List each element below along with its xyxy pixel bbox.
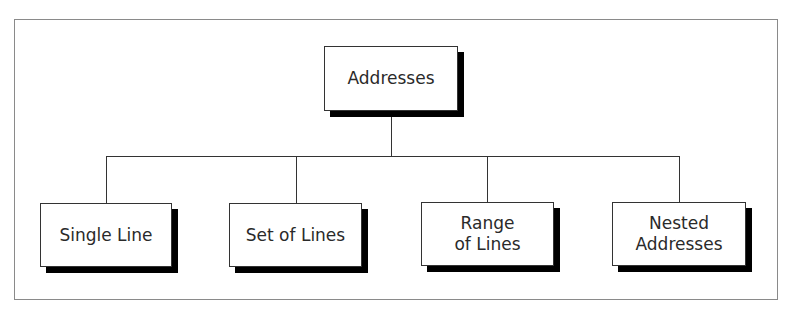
- node-addresses: Addresses: [324, 46, 458, 111]
- node-label: Set of Lines: [246, 225, 345, 246]
- node-set-of-lines: Set of Lines: [229, 203, 362, 267]
- node-label: Nested Addresses: [635, 213, 722, 255]
- node-range-of-lines: Range of Lines: [421, 202, 554, 266]
- horizontal-connector: [106, 156, 680, 157]
- node-single-line: Single Line: [40, 203, 172, 267]
- node-label: Range of Lines: [454, 213, 520, 255]
- child-connector-4: [679, 156, 680, 202]
- child-connector-2: [296, 156, 297, 203]
- node-label: Single Line: [59, 225, 152, 246]
- node-label: Addresses: [347, 68, 434, 89]
- root-connector: [391, 110, 392, 156]
- child-connector-1: [106, 156, 107, 203]
- node-nested-addresses: Nested Addresses: [612, 202, 746, 266]
- child-connector-3: [487, 156, 488, 202]
